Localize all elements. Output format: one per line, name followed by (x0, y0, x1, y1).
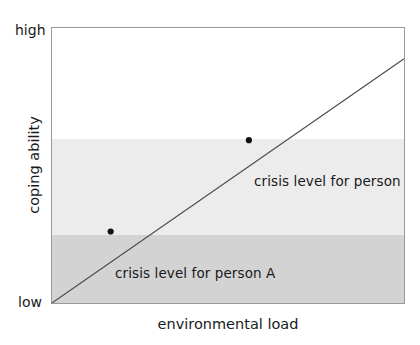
coping-ability-chart: high low coping ability environmental lo… (0, 0, 420, 345)
plot-area: crisis level for person A crisis level f… (51, 27, 405, 304)
annotation-person-b: crisis level for person B (254, 173, 405, 189)
data-point-person-a (108, 228, 114, 234)
x-axis-title: environmental load (51, 316, 405, 332)
annotation-person-a: crisis level for person A (115, 265, 275, 281)
y-axis-title: coping ability (26, 105, 42, 225)
y-axis-low-label: low (18, 294, 42, 310)
trend-line-svg (52, 28, 404, 303)
y-axis-high-label: high (15, 22, 46, 38)
data-point-person-b (246, 137, 252, 143)
